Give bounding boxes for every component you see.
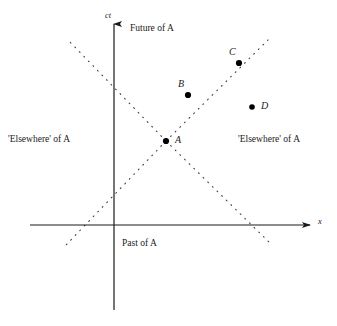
past-left-ray [66,141,166,245]
past-right-ray [166,141,272,245]
spacetime-diagram-figure: ct x Future of A Past of A 'Elsewhere' o… [0,0,337,326]
event-marker-D[interactable] [249,104,255,110]
event-marker-A[interactable] [163,138,169,144]
event-marker-B[interactable] [185,92,191,98]
event-marker-C[interactable] [236,60,242,66]
elsewhere-right-region-label: 'Elsewhere' of A [238,135,300,145]
event-label-D: D [261,101,268,111]
ct-axis-label: ct [105,11,111,20]
event-markers [163,60,255,144]
event-label-A: A [175,135,181,145]
event-label-C: C [229,47,236,57]
event-label-B: B [178,79,184,89]
x-axis-label: x [318,217,322,226]
future-right-ray [166,40,268,141]
past-region-label: Past of A [122,239,157,249]
elsewhere-left-region-label: 'Elsewhere' of A [8,135,70,145]
future-region-label: Future of A [130,24,174,34]
diagram-canvas [0,0,337,326]
future-left-ray [68,40,166,141]
